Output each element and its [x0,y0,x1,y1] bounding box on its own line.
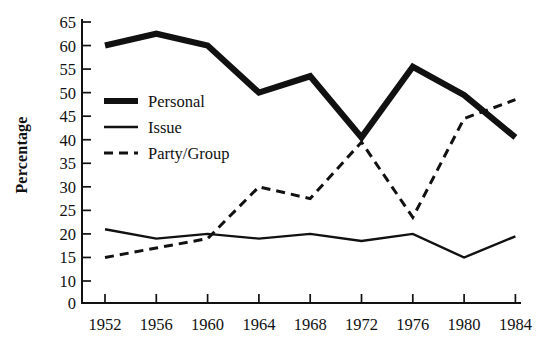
line-chart-plot: 0101520253035404550556065 19521956196019… [0,0,541,359]
y-axis-labels: 0101520253035404550556065 [60,13,77,313]
y-tick-label-15: 15 [60,248,77,267]
x-tick-label-1964: 1964 [242,315,275,334]
legend-label-issue: Issue [148,118,182,137]
series-line-issue [105,229,515,257]
chart-legend: Personal Issue Party/Group [104,92,230,163]
y-tick-label-60: 60 [60,37,77,56]
y-tick-label-35: 35 [60,154,77,173]
y-tick-label-10: 10 [60,272,77,291]
y-axis-tick-group [82,22,91,281]
y-tick-label-45: 45 [60,107,77,126]
y-tick-label-65: 65 [60,13,77,32]
y-tick-label-30: 30 [60,178,77,197]
x-tick-label-1968: 1968 [294,315,327,334]
x-tick-label-1960: 1960 [191,315,224,334]
x-tick-label-1952: 1952 [89,315,122,334]
legend-label-personal: Personal [148,92,205,111]
legend-label-party-group: Party/Group [148,144,230,163]
x-tick-label-1956: 1956 [140,315,173,334]
chart-figure: Percentage 0101520253035404550556065 195… [0,0,541,359]
y-tick-label-50: 50 [60,84,77,103]
x-tick-label-1980: 1980 [448,315,481,334]
x-tick-label-1984: 1984 [499,315,532,334]
x-tick-label-1972: 1972 [345,315,378,334]
x-tick-label-1976: 1976 [396,315,429,334]
x-axis-tick-group [105,294,515,303]
y-tick-label-55: 55 [60,60,77,79]
y-tick-label-25: 25 [60,201,77,220]
y-tick-label-20: 20 [60,225,77,244]
x-axis-labels: 195219561960196419681972197619801984 [89,315,532,334]
y-tick-label-0: 0 [68,294,76,313]
y-tick-label-40: 40 [60,131,77,150]
